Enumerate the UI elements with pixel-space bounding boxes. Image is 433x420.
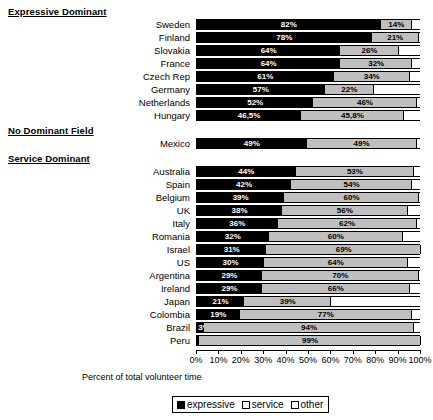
- category-label: Germany: [0, 84, 193, 95]
- x-axis-label: Percent of total volunteer time: [82, 372, 202, 382]
- bar-track: 42%54%: [196, 179, 420, 190]
- bar-segment-other: [410, 72, 421, 81]
- bar-track: 44%53%: [196, 166, 420, 177]
- category-label: Belgium: [0, 192, 193, 203]
- bar-value-label: 38%: [197, 206, 282, 215]
- bar-segment-other: [412, 20, 421, 29]
- bar-value-label: 61%: [197, 72, 334, 81]
- bar-value-label: 31%: [197, 245, 266, 254]
- bar-value-label: 46,5%: [197, 111, 301, 120]
- bar-value-label: 36%: [197, 219, 278, 228]
- legend-swatch-service: [242, 401, 250, 409]
- axis-tick: [241, 350, 242, 354]
- chart-row: UK38%56%: [0, 205, 433, 216]
- bar-track: 46,5%45,8%: [196, 110, 420, 121]
- group-header: No Dominant Field: [8, 125, 94, 136]
- bar-track: 82%14%: [196, 19, 420, 30]
- bar-value-label: 60%: [284, 193, 418, 202]
- bar-segment-other: [419, 271, 421, 280]
- bar-track: 30%64%: [196, 257, 420, 268]
- category-label: Czech Rep: [0, 71, 193, 82]
- bar-segment-other: [404, 111, 421, 120]
- axis-tick: [308, 350, 309, 354]
- category-label: Sweden: [0, 19, 193, 30]
- chart-row: Colombia19%77%: [0, 309, 433, 320]
- bar-value-label: 70%: [262, 271, 419, 280]
- chart-row: Czech Rep61%34%: [0, 71, 433, 82]
- category-label: Netherlands: [0, 97, 193, 108]
- axis-tick-label: 100%: [408, 355, 431, 365]
- bar-track: 61%34%: [196, 71, 420, 82]
- bar-value-label: 60%: [269, 232, 403, 241]
- bar-segment-other: [414, 167, 421, 176]
- axis-tick: [286, 350, 287, 354]
- axis-tick: [218, 350, 219, 354]
- legend-item[interactable]: service: [242, 399, 284, 410]
- bar-track: 64%32%: [196, 58, 420, 69]
- axis-tick-label: 80%: [366, 355, 384, 365]
- category-label: Slovakia: [0, 45, 193, 56]
- category-label: France: [0, 58, 193, 69]
- axis-tick-label: 50%: [299, 355, 317, 365]
- bar-segment-other: [419, 193, 421, 202]
- bar-value-label: 64%: [197, 46, 340, 55]
- legend-label: expressive: [187, 399, 235, 410]
- bar-track: 52%46%: [196, 97, 420, 108]
- axis-tick: [420, 350, 421, 354]
- chart-row: Finland78%21%: [0, 32, 433, 43]
- axis-tick: [398, 350, 399, 354]
- bar-value-label: 21%: [197, 297, 244, 306]
- bar-value-label: 21%: [372, 33, 419, 42]
- group-header: Expressive Dominant: [8, 6, 107, 17]
- bar-segment-other: [408, 258, 421, 267]
- bar-segment-other: [403, 232, 421, 241]
- legend-item[interactable]: expressive: [177, 399, 235, 410]
- bar-value-label: 29%: [197, 284, 262, 293]
- bar-segment-other: [374, 85, 421, 94]
- bar-track: 99%: [196, 335, 420, 346]
- bar-value-label: 49%: [307, 139, 417, 148]
- chart-row: Germany57%22%: [0, 84, 433, 95]
- chart-row: Belgium39%60%: [0, 192, 433, 203]
- axis-tick: [196, 350, 197, 354]
- chart-row: Romania32%60%: [0, 231, 433, 242]
- bar-track: 36%62%: [196, 218, 420, 229]
- bar-track: 57%22%: [196, 84, 420, 95]
- legend-swatch-other: [291, 401, 299, 409]
- bar-segment-other: [412, 180, 421, 189]
- axis-tick-label: 10%: [209, 355, 227, 365]
- bar-value-label: 14%: [381, 20, 412, 29]
- bar-segment-other: [417, 219, 421, 228]
- chart-row: Slovakia64%26%: [0, 45, 433, 56]
- chart-row: US30%64%: [0, 257, 433, 268]
- bar-value-label: 64%: [264, 258, 407, 267]
- category-label: Romania: [0, 231, 193, 242]
- bar-value-label: 78%: [197, 33, 372, 42]
- chart-row: Hungary46,5%45,8%: [0, 110, 433, 121]
- bar-segment-other: [410, 284, 421, 293]
- category-label: Ireland: [0, 283, 193, 294]
- bar-value-label: 54%: [291, 180, 412, 189]
- chart-row: Australia44%53%: [0, 166, 433, 177]
- bar-track: 21%39%: [196, 296, 420, 307]
- bar-value-label: 42%: [197, 180, 291, 189]
- bar-value-label: 46%: [313, 98, 416, 107]
- chart-row: Ireland29%66%: [0, 283, 433, 294]
- x-axis: 0%10%20%30%40%50%60%70%80%90%100%: [196, 350, 420, 351]
- legend-item[interactable]: other: [291, 399, 324, 410]
- bar-track: 19%77%: [196, 309, 420, 320]
- category-label: Peru: [0, 335, 193, 346]
- chart-row: Sweden82%14%: [0, 19, 433, 30]
- bar-value-label: 30%: [197, 258, 264, 267]
- bar-value-label: 45,8%: [301, 111, 404, 120]
- category-label: Israel: [0, 244, 193, 255]
- bar-value-label: 62%: [278, 219, 417, 228]
- bar-value-label: 99%: [199, 336, 421, 345]
- category-label: Hungary: [0, 110, 193, 121]
- bar-segment-other: [419, 33, 421, 42]
- bar-track: 49%49%: [196, 138, 420, 149]
- bar-segment-other: [399, 46, 421, 55]
- bar-segment-other: [417, 139, 421, 148]
- axis-tick: [330, 350, 331, 354]
- category-label: Finland: [0, 32, 193, 43]
